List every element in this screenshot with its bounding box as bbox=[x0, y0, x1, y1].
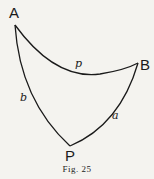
side-label-p: p bbox=[75, 57, 82, 70]
side-b-arc bbox=[15, 25, 70, 146]
vertex-label-a: A bbox=[9, 4, 19, 21]
side-label-a: a bbox=[112, 109, 119, 122]
vertex-label-b: B bbox=[140, 56, 150, 73]
vertex-label-p: P bbox=[65, 147, 75, 164]
figure-caption: Fig. 25 bbox=[0, 164, 154, 174]
spherical-triangle-figure: A B P p b a Fig. 25 bbox=[0, 0, 154, 179]
triangle-drawing bbox=[0, 0, 154, 179]
side-label-b: b bbox=[20, 91, 27, 104]
side-a-arc bbox=[70, 63, 138, 146]
